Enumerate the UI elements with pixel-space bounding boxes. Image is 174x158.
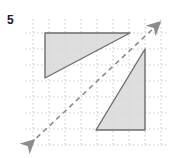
upper-left-triangle [45, 33, 130, 78]
diagram-canvas [0, 0, 174, 158]
geometry-figure: 5 [0, 0, 174, 158]
lower-right-triangle [96, 49, 145, 130]
